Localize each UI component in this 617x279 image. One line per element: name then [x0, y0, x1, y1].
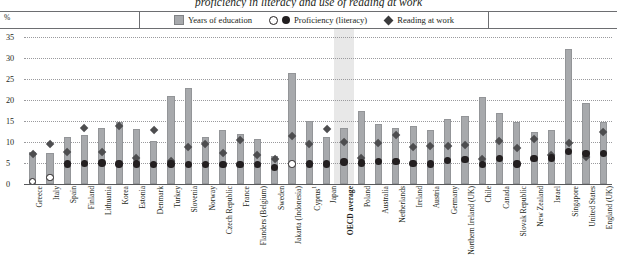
x-label-ireland: Ireland	[416, 186, 424, 208]
x-label-chile: Chile	[485, 186, 493, 202]
x-axis-line	[24, 184, 612, 185]
x-label-turkey: Turkey	[174, 186, 182, 208]
bar-years-of-education	[116, 122, 123, 184]
gridline-20	[24, 100, 612, 101]
x-label-australia: Australia	[382, 186, 390, 214]
marker-reading-at-work	[322, 125, 331, 134]
open-circle-icon	[269, 16, 278, 25]
gridline-35	[24, 37, 612, 38]
x-axis-category-labels: GreeceItalySpainFinlandLithuaniaKoreaEst…	[24, 186, 612, 279]
gridline-5	[24, 163, 612, 164]
gridline-10	[24, 142, 612, 143]
marker-proficiency-literacy	[64, 160, 71, 167]
bar-years-of-education	[375, 124, 382, 184]
marker-proficiency-literacy	[427, 160, 434, 167]
marker-proficiency-literacy	[254, 161, 261, 168]
y-tick-label-30: 30	[6, 54, 22, 63]
legend-item-years-of-education: Years of education	[174, 15, 252, 25]
bar-years-of-education	[479, 97, 486, 184]
x-label-slovenia: Slovenia	[191, 186, 199, 213]
x-label-cyprus: Cyprus1	[312, 186, 321, 211]
x-label-czech-republic: Czech Republic	[226, 186, 234, 234]
x-label-spain: Spain	[70, 186, 78, 203]
bar-years-of-education	[358, 111, 365, 184]
x-label-italy: Italy	[53, 186, 61, 200]
bar-years-of-education	[167, 96, 174, 184]
filled-circle-icon	[282, 16, 290, 24]
x-label-japan: Japan	[330, 186, 338, 203]
x-label-jakarta-indonesia: Jakarta (Indonesia)	[295, 186, 303, 244]
x-label-greece: Greece	[36, 186, 44, 208]
y-tick-label-25: 25	[6, 75, 22, 84]
gridline-25	[24, 79, 612, 80]
marker-proficiency-literacy	[98, 159, 105, 166]
bar-years-of-education	[496, 113, 503, 184]
bar-years-of-education	[306, 121, 313, 184]
x-label-united-states: United States	[589, 186, 597, 227]
x-label-finland: Finland	[88, 186, 96, 209]
marker-proficiency-literacy	[461, 156, 468, 163]
bar-years-of-education	[427, 130, 434, 184]
marker-proficiency-literacy	[46, 174, 53, 181]
bar-years-of-education	[513, 122, 520, 184]
marker-proficiency-literacy	[340, 158, 347, 165]
y-tick-label-5: 5	[6, 159, 22, 168]
marker-proficiency-literacy	[306, 160, 313, 167]
marker-proficiency-literacy	[115, 160, 122, 167]
bar-years-of-education	[461, 116, 468, 184]
x-label-korea: Korea	[122, 186, 130, 205]
y-tick-label-20: 20	[6, 96, 22, 105]
marker-proficiency-literacy	[167, 160, 174, 167]
marker-proficiency-literacy	[185, 161, 192, 168]
chart-legend: Years of education Proficiency (literacy…	[139, 11, 489, 29]
x-label-denmark: Denmark	[157, 186, 165, 214]
gridline-15	[24, 121, 612, 122]
y-tick-label-10: 10	[6, 138, 22, 147]
x-label-norway: Norway	[209, 186, 217, 210]
legend-label-years-of-education: Years of education	[188, 16, 252, 25]
x-label-lithuania: Lithuania	[105, 186, 113, 215]
legend-label-reading-at-work: Reading at work	[397, 16, 454, 25]
marker-proficiency-literacy	[323, 160, 330, 167]
bar-years-of-education	[582, 103, 589, 184]
y-axis-unit-label: %	[4, 13, 10, 22]
legend-label-proficiency: Proficiency (literacy)	[294, 16, 367, 25]
y-tick-label-0: 0	[6, 180, 22, 189]
marker-proficiency-literacy	[358, 159, 365, 166]
plot-area	[24, 37, 612, 184]
marker-proficiency-literacy	[548, 154, 555, 161]
x-label-germany: Germany	[451, 186, 459, 214]
y-tick-label-35: 35	[6, 33, 22, 42]
marker-reading-at-work	[80, 123, 89, 132]
x-label-new-zealand: New Zealand	[537, 186, 545, 227]
x-label-france: France	[243, 186, 251, 207]
marker-proficiency-literacy	[409, 160, 416, 167]
bar-swatch-icon	[174, 15, 184, 25]
bar-years-of-education	[185, 88, 192, 184]
marker-proficiency-literacy	[392, 158, 399, 165]
marker-proficiency-literacy	[288, 160, 295, 167]
legend-item-proficiency: Proficiency (literacy)	[269, 16, 367, 25]
gridline-30	[24, 58, 612, 59]
x-label-canada: Canada	[503, 186, 511, 209]
x-label-flanders-belgium: Flanders (Belgium)	[260, 186, 268, 245]
bar-years-of-education	[565, 49, 572, 184]
x-label-northern-ireland-uk: Northern Ireland (UK)	[468, 186, 476, 255]
x-label-slovak-republic: Slovak Republic	[520, 186, 528, 236]
marker-proficiency-literacy	[513, 160, 520, 167]
filled-diamond-icon	[384, 15, 394, 25]
x-label-england-uk: England (UK)	[606, 186, 614, 229]
chart-figure: proficiency in literacy and use of readi…	[0, 0, 617, 279]
marker-proficiency-literacy	[133, 160, 140, 167]
marker-proficiency-literacy	[236, 161, 243, 168]
legend-item-reading-at-work: Reading at work	[384, 16, 454, 25]
bar-years-of-education	[340, 128, 347, 184]
bar-years-of-education	[444, 119, 451, 184]
x-label-israel: Israel	[554, 186, 562, 203]
x-label-netherlands: Netherlands	[399, 186, 407, 223]
chart-title: proficiency in literacy and use of readi…	[0, 0, 617, 8]
x-label-poland: Poland	[364, 186, 372, 207]
x-label-singapore: Singapore	[572, 186, 580, 217]
x-label-oecd-average: OECD average	[347, 186, 355, 235]
marker-proficiency-literacy	[600, 150, 607, 157]
